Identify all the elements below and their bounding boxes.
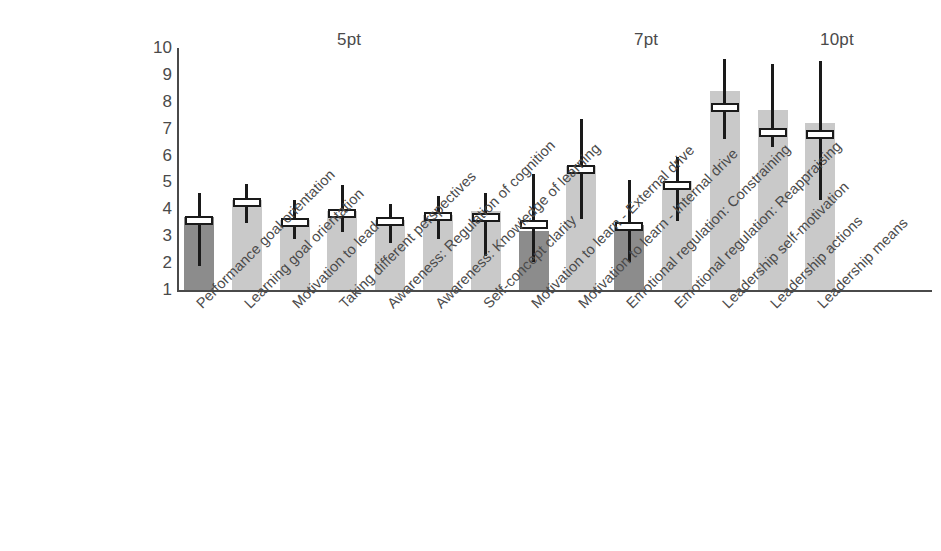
y-axis-tick-3: 3	[146, 227, 172, 244]
median-marker-2	[233, 198, 261, 207]
median-marker-12	[711, 103, 739, 112]
y-axis-tick-6: 6	[146, 147, 172, 164]
group-label-5pt: 5pt	[337, 30, 361, 50]
bar-chart: 5pt7pt10pt10987654321Performance goal or…	[0, 0, 941, 551]
y-axis-tick-8: 8	[146, 93, 172, 110]
group-label-10pt: 10pt	[820, 30, 854, 50]
y-axis-line	[177, 48, 179, 292]
median-marker-1	[185, 216, 213, 225]
y-axis-tick-9: 9	[146, 66, 172, 83]
median-marker-5	[376, 217, 404, 226]
error-bar-12	[723, 59, 726, 140]
y-axis-tick-1: 1	[146, 281, 172, 298]
median-marker-14	[806, 130, 834, 139]
group-label-7pt: 7pt	[634, 30, 658, 50]
y-axis-tick-2: 2	[146, 254, 172, 271]
median-marker-13	[759, 128, 787, 137]
error-bar-1	[198, 193, 201, 266]
y-axis-tick-7: 7	[146, 120, 172, 137]
y-axis-tick-5: 5	[146, 173, 172, 190]
y-axis-tick-4: 4	[146, 200, 172, 217]
y-axis-tick-10: 10	[146, 39, 172, 56]
